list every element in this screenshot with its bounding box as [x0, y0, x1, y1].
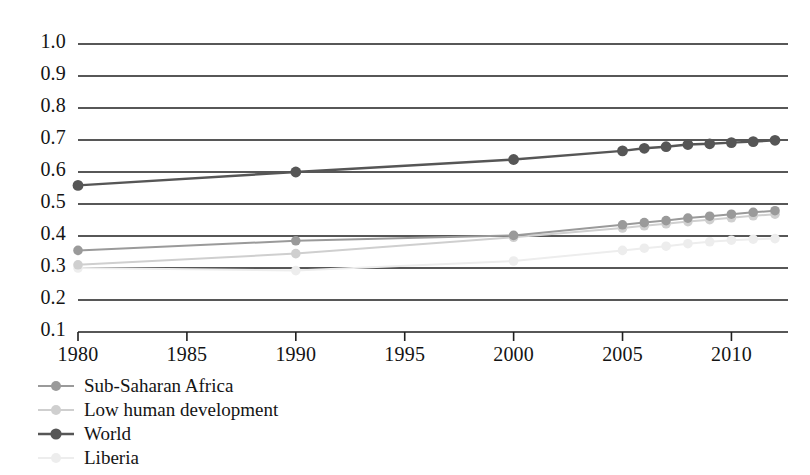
series-marker — [727, 209, 737, 219]
series-marker — [291, 249, 301, 259]
series-marker — [291, 266, 301, 276]
legend-item[interactable]: Sub-Saharan Africa — [34, 374, 454, 398]
x-axis-tick-label: 1985 — [152, 343, 222, 366]
series-marker — [770, 135, 781, 146]
x-axis-tick-label: 1995 — [370, 343, 440, 366]
legend-marker-icon — [34, 446, 78, 470]
gridlines-group — [78, 44, 788, 332]
series-marker — [290, 167, 301, 178]
y-axis-tick-label: 0.2 — [14, 286, 66, 309]
series-marker — [748, 208, 758, 218]
series-marker — [727, 235, 737, 245]
series-marker — [704, 138, 715, 149]
legend-item-label: Liberia — [84, 446, 139, 470]
legend-marker-icon — [34, 374, 78, 398]
series-marker — [770, 234, 780, 244]
y-axis-tick-label: 1.0 — [14, 30, 66, 53]
series-marker — [508, 154, 519, 165]
series-marker — [618, 246, 628, 256]
series-marker — [683, 139, 694, 150]
series-marker — [509, 231, 519, 241]
series-marker — [748, 234, 758, 244]
series-marker — [770, 206, 780, 216]
y-axis-tick-label: 0.7 — [14, 126, 66, 149]
series-marker — [640, 243, 650, 253]
chart-legend: Sub-Saharan AfricaLow human developmentW… — [34, 374, 454, 470]
x-axis-tick-label: 1990 — [261, 343, 331, 366]
y-axis-tick-label: 0.4 — [14, 222, 66, 245]
series-marker — [705, 211, 715, 221]
y-axis-tick-label: 0.3 — [14, 254, 66, 277]
legend-item[interactable]: Liberia — [34, 446, 454, 470]
legend-item-label: World — [84, 422, 131, 446]
series-marker — [73, 180, 84, 191]
legend-item[interactable]: Low human development — [34, 398, 454, 422]
series-markers-group — [73, 135, 781, 276]
series-lines-group — [78, 140, 775, 270]
series-marker — [640, 218, 650, 228]
series-marker — [661, 241, 671, 251]
x-axis-tick-label: 1980 — [43, 343, 113, 366]
series-marker — [617, 146, 628, 157]
legend-item[interactable]: World — [34, 422, 454, 446]
series-marker — [291, 236, 301, 246]
y-axis-tick-label: 0.9 — [14, 62, 66, 85]
series-marker — [683, 213, 693, 223]
series-marker — [661, 141, 672, 152]
series-marker — [661, 216, 671, 226]
x-axis-tick-label: 2000 — [479, 343, 549, 366]
y-axis-tick-label: 0.1 — [14, 318, 66, 341]
legend-item-label: Sub-Saharan Africa — [84, 374, 233, 398]
series-marker — [618, 220, 628, 230]
legend-marker-icon — [34, 398, 78, 422]
series-marker — [726, 137, 737, 148]
legend-item-label: Low human development — [84, 398, 278, 422]
y-axis-tick-label: 0.5 — [14, 190, 66, 213]
y-axis-tick-label: 0.8 — [14, 94, 66, 117]
series-marker — [683, 239, 693, 249]
legend-marker-icon — [34, 422, 78, 446]
x-axis-group — [78, 332, 731, 341]
series-marker — [705, 237, 715, 247]
y-axis-tick-label: 0.6 — [14, 158, 66, 181]
x-axis-tick-label: 2010 — [696, 343, 766, 366]
series-marker — [509, 256, 519, 266]
series-marker — [639, 143, 650, 154]
x-axis-tick-label: 2005 — [588, 343, 658, 366]
series-marker — [73, 260, 83, 270]
series-marker — [748, 136, 759, 147]
hdi-trend-chart: 0.10.20.30.40.50.60.70.80.91.0 198019851… — [0, 0, 810, 475]
series-marker — [73, 246, 83, 256]
